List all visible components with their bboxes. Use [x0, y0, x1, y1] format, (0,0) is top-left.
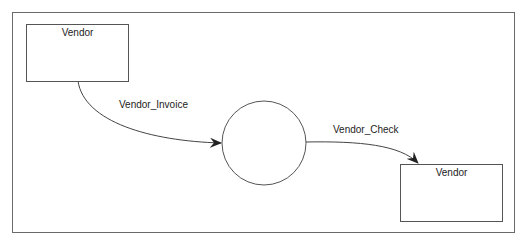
flow-label-vendor-invoice: Vendor_Invoice [119, 99, 188, 110]
flow-arrow-vendor-check[interactable] [306, 142, 418, 163]
entity-label: Vendor [401, 167, 502, 178]
process-circle[interactable] [222, 101, 306, 185]
entity-label: Vendor [27, 27, 128, 38]
vendor-entity-sink[interactable]: Vendor [400, 164, 503, 222]
flow-label-vendor-check: Vendor_Check [333, 124, 399, 135]
flow-arrow-vendor-invoice[interactable] [78, 81, 221, 143]
vendor-entity-source[interactable]: Vendor [26, 24, 129, 82]
